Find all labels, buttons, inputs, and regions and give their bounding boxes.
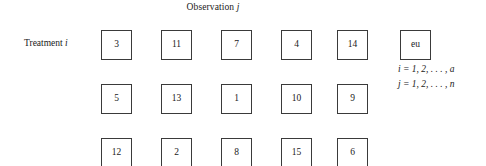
- grid-cell-eu: eu: [400, 30, 431, 60]
- grid-cell: 5: [101, 84, 132, 114]
- index-notation-line-i: i = 1, 2, . . . , a: [398, 62, 455, 77]
- grid-cell: 4: [281, 30, 312, 60]
- grid-cell: 6: [337, 138, 368, 166]
- grid-cell: 2: [161, 138, 192, 166]
- grid-cell: 13: [161, 84, 192, 114]
- row-axis-label-symbol: i: [65, 38, 68, 48]
- grid-cell: 8: [221, 138, 252, 166]
- grid-cell: 10: [281, 84, 312, 114]
- grid-cell: 7: [221, 30, 252, 60]
- grid-cell: 15: [281, 138, 312, 166]
- row-axis-label-text: Treatment: [24, 38, 63, 48]
- grid-cell: 12: [101, 138, 132, 166]
- grid-cell: 1: [221, 84, 252, 114]
- randomization-diagram: Observation j Treatment i 3 11 7 4 14 eu…: [0, 0, 486, 166]
- row-axis-label: Treatment i: [24, 38, 68, 48]
- grid-cell: 14: [337, 30, 368, 60]
- column-axis-label: Observation j: [0, 2, 426, 12]
- grid-cell: 11: [161, 30, 192, 60]
- index-notation-line-j: j = 1, 2, . . . , n: [398, 77, 455, 92]
- column-axis-label-text: Observation: [187, 2, 235, 12]
- column-axis-label-symbol: j: [237, 2, 240, 12]
- grid-cell: 9: [337, 84, 368, 114]
- index-notation: i = 1, 2, . . . , a j = 1, 2, . . . , n: [398, 62, 455, 92]
- grid-cell: 3: [101, 30, 132, 60]
